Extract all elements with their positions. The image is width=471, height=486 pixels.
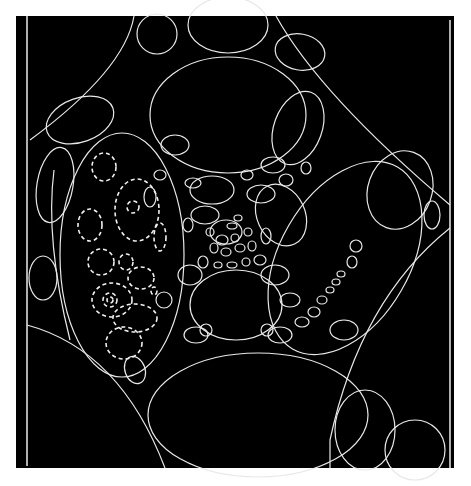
ellipse-packing-figure: [0, 0, 471, 486]
figure-caption: [28, 476, 458, 486]
